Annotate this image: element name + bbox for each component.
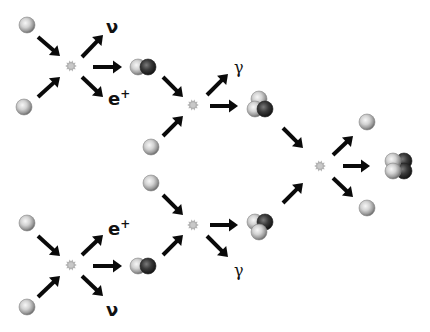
reaction-starburst-icon — [65, 259, 77, 270]
arrow — [210, 100, 238, 113]
arrow — [163, 235, 183, 255]
proton-proton-chain-diagram: νe+γγe+ν — [0, 0, 430, 332]
neutrino-label: ν — [106, 299, 118, 320]
arrow — [82, 35, 103, 57]
arrow — [82, 77, 103, 97]
arrow — [283, 128, 303, 148]
positron-label: e+ — [108, 217, 130, 239]
arrow — [82, 235, 103, 255]
gamma-ray-label: γ — [234, 261, 244, 280]
proton-icon — [359, 114, 375, 130]
reaction-starburst-icon — [187, 99, 199, 110]
helium4-nucleus-icon — [385, 153, 412, 179]
arrow — [210, 219, 238, 232]
arrow — [38, 37, 60, 56]
proton-icon — [143, 139, 159, 155]
arrow — [333, 178, 353, 197]
arrow — [283, 183, 303, 203]
arrow — [333, 136, 353, 155]
deuterium-nucleus-icon — [130, 258, 156, 274]
arrow — [38, 276, 60, 297]
reaction-starburst-icon — [314, 160, 326, 171]
arrow — [93, 260, 122, 273]
arrow — [163, 77, 183, 97]
reaction-points — [65, 60, 326, 270]
helium3-nucleus-icon — [247, 91, 273, 117]
helium3-nucleus-icon — [247, 214, 273, 240]
proton-icon — [359, 200, 375, 216]
arrow — [163, 116, 183, 136]
reaction-starburst-icon — [65, 60, 77, 71]
particle-labels: νe+γγe+ν — [106, 16, 244, 320]
arrow — [82, 276, 103, 296]
arrow — [207, 236, 228, 257]
proton-icon — [19, 215, 35, 231]
arrow — [93, 61, 122, 74]
arrow — [343, 160, 370, 173]
proton-icon — [143, 175, 159, 191]
proton-icon — [19, 299, 35, 315]
arrow — [207, 74, 228, 95]
positron-label: e+ — [108, 87, 130, 109]
proton-icon — [19, 17, 35, 33]
reaction-starburst-icon — [187, 219, 199, 230]
proton-icon — [16, 99, 32, 115]
diagram-canvas: νe+γγe+ν — [0, 0, 430, 332]
gamma-ray-label: γ — [234, 58, 244, 77]
arrow — [38, 77, 60, 97]
deuterium-nucleus-icon — [130, 59, 156, 75]
arrow — [38, 236, 60, 256]
neutrino-label: ν — [106, 16, 118, 37]
arrow — [163, 195, 183, 215]
